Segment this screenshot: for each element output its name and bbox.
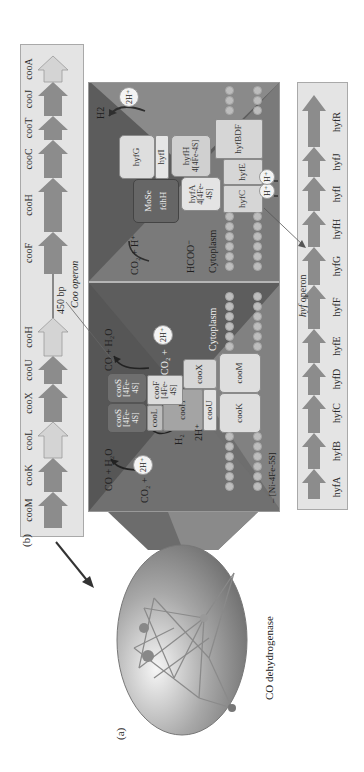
coo-cytoplasm-label: Cytoplasm <box>207 308 218 351</box>
subunit-cooF: cooF [4Fe-4S] <box>147 375 183 405</box>
gene-arrow-cooH-2 <box>38 178 68 232</box>
gene-label-hyfA: hyfA <box>331 477 342 498</box>
gene-arrow-cooJ <box>38 82 68 116</box>
gene-label-hyfJ: hyfJ <box>331 153 342 170</box>
gene-label-cooJ: cooJ <box>23 90 34 108</box>
gene-label-cooT: cooT <box>23 118 34 139</box>
coo-cluster-legend: – [Ni-4Fe-5S] <box>267 452 277 503</box>
subunit-hyfA: hyfA 4[4Fe-4S] <box>181 177 221 211</box>
gene-arrow-cooM <box>38 492 68 528</box>
gene-label-hyfF: hyfF <box>331 298 342 317</box>
gene-label-cooF: cooF <box>23 243 34 263</box>
hyf-h2: H2 <box>95 107 106 119</box>
panel-b-label: (b) <box>20 534 32 547</box>
coo-right-product: CO₂ + <box>159 349 170 375</box>
hyf-pointer-line <box>260 192 310 252</box>
gene-label-hyfH: hyfH <box>331 219 342 240</box>
hyf-hcoo: HCOO⁻ <box>185 240 196 273</box>
panel-a-label: (a) <box>114 728 126 740</box>
gene-label-hyfE: hyfE <box>331 336 342 355</box>
subunit-hyfG: hyfG <box>119 135 155 179</box>
subunit-cooM: cooM <box>219 353 261 393</box>
hyf-h-plus-2: H⁺ <box>259 169 275 185</box>
subunit-hyfBDF: hyfBDF <box>215 119 263 159</box>
pointer-arrow <box>50 534 100 594</box>
gene-arrow-cooK <box>38 458 68 492</box>
gene-label-cooA: cooA <box>23 58 34 80</box>
subunit-hyfE: hyfE <box>223 159 263 185</box>
subunit-mose-fdhH: MoSe fdhH <box>133 179 179 223</box>
gene-label-cooC: cooC <box>23 148 34 169</box>
co-dehydrogenase-structure <box>114 542 250 738</box>
coo-right-protons: 2H⁺ <box>153 325 173 345</box>
gene-label-cooU: cooU <box>23 359 34 381</box>
subunit-cooS-2: cooS [4Fe-4S] <box>107 373 147 403</box>
subunit-cooX: cooX <box>183 359 217 389</box>
gene-label-cooL: cooL <box>23 430 34 451</box>
subunit-cooS-1: cooS [4Fe-4S] <box>107 403 147 433</box>
subunit-hyfI: hyfI <box>155 135 169 179</box>
subunit-cooU: cooU <box>203 389 217 431</box>
gene-label-hyfC: hyfC <box>331 403 342 423</box>
subunit-cooK: cooK <box>219 393 261 433</box>
coo-h2: H₂ <box>173 434 184 445</box>
gene-label-hyfG: hyfG <box>331 256 342 277</box>
subunit-hyfC: hyfC <box>223 185 263 213</box>
hyf-cytoplasm-label: Cytoplasm <box>207 230 218 273</box>
gene-label-hyfB: hyfB <box>331 441 342 461</box>
gene-label-cooH-2: cooH <box>23 194 34 216</box>
hyf-co2-h: CO₂ + H⁺ <box>129 235 140 275</box>
gene-label-cooK: cooK <box>23 464 34 486</box>
hyf-operon-title: hyf operon <box>297 275 308 318</box>
coo-2h: 2H⁺ <box>193 424 204 441</box>
subunit-cooL: cooL <box>147 405 163 431</box>
gene-label-hyfI: hyfI <box>331 186 342 203</box>
coo-pointer-line <box>64 292 124 372</box>
gene-label-hyfR: hyfR <box>331 112 342 132</box>
figure-canvas: cooM cooK cooL cooX cooU cooH cooF cooH … <box>0 0 364 772</box>
gene-arrow-cooT <box>38 116 68 140</box>
enzyme-caption: CO dehydrogenase <box>263 616 275 700</box>
gene-arrow-cooX <box>38 384 68 422</box>
gene-arrow-cooA <box>38 56 68 82</box>
coo-operon-panel: cooM cooK cooL cooX cooU cooH cooF cooH … <box>20 44 84 537</box>
gene-label-hyfD: hyfD <box>331 369 342 390</box>
hyf-operon-panel: hyfA hyfB hyfC hyfD hyfE hyfF hyfG hyfH … <box>297 82 348 510</box>
gene-label-cooM: cooM <box>23 498 34 521</box>
gene-arrow-cooF <box>38 232 68 274</box>
gene-arrow-cooC <box>38 140 68 178</box>
hyf-2h: 2H⁺ <box>119 87 139 107</box>
gene-arrow-cooL <box>38 422 68 458</box>
subunit-hyfH: hyfH 4[4Fe-4S] <box>171 135 211 177</box>
gene-label-cooX: cooX <box>23 392 34 414</box>
gene-label-cooH-1: cooH <box>23 326 34 348</box>
zoom-connector <box>108 490 258 550</box>
coo-left-substrate: CO + H₂O <box>103 449 114 491</box>
coo-left-protons: 2H⁺ <box>133 455 153 475</box>
